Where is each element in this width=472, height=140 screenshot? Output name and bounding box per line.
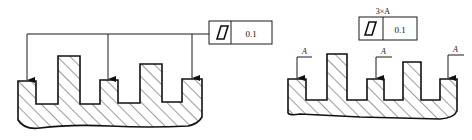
common-leader: [27, 34, 209, 80]
flatness-icon: [217, 26, 228, 39]
surface-label-a3: A: [452, 45, 458, 54]
feature-control-frame-right: 3×A 0.1: [359, 7, 417, 40]
tolerance-value-right: 0.1: [394, 25, 405, 35]
flatness-icon: [365, 22, 376, 35]
surface-leaders: A A A: [297, 45, 464, 78]
left-figure: 0.1: [18, 21, 272, 128]
surface-label-a1: A: [301, 47, 307, 56]
left-part-profile: [18, 56, 202, 128]
tolerance-value-left: 0.1: [245, 29, 256, 39]
frame-note: 3×A: [376, 7, 391, 16]
right-figure: A A A 3×A 0.1: [288, 7, 464, 119]
tolerance-diagram: 0.1 A A A 3×A 0.1: [0, 0, 472, 140]
right-part-profile: [288, 54, 457, 119]
feature-control-frame-left: 0.1: [209, 21, 272, 44]
surface-label-a2: A: [380, 47, 386, 56]
